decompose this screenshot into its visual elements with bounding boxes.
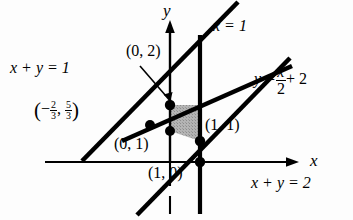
label-point-0-2: (0, 2) <box>126 43 161 59</box>
fraction-x-over-2: x2 <box>276 64 286 98</box>
label-x-plus-y-equals-1: x + y = 1 <box>10 60 70 76</box>
math-diagram: y x x + y = 1 x = 1 x + y = 2 y =x2+ 2 (… <box>0 0 353 220</box>
vertex-dot-1-0 <box>195 157 205 167</box>
fraction-two-thirds: 23 <box>50 100 57 121</box>
vertex-dot-0-2 <box>165 100 175 110</box>
fraction-denominator: 3 <box>50 111 57 121</box>
fraction-denominator: 3 <box>65 111 72 121</box>
comma-separator: , <box>57 100 61 117</box>
x-axis-arrowhead <box>286 157 299 167</box>
fraction-numerator: x <box>276 64 286 81</box>
x-axis-label: x <box>310 152 318 169</box>
label-x-equals-1: x = 1 <box>213 18 247 34</box>
y-axis-arrowhead <box>165 20 175 33</box>
y-axis-label: y <box>163 2 171 19</box>
open-paren: ( <box>34 98 41 122</box>
label-y-equals-lhs: y = <box>254 70 276 87</box>
close-paren: ) <box>72 98 79 122</box>
fraction-denominator: 2 <box>276 81 286 97</box>
vertex-dot-0-1 <box>165 126 175 136</box>
fraction-five-thirds: 53 <box>65 100 72 121</box>
label-point-neg-two-thirds-five-thirds: (−23, 53) <box>34 100 79 121</box>
label-point-1-0: (1, 0) <box>148 165 183 181</box>
label-y-equals-rhs: + 2 <box>286 70 307 87</box>
label-y-equals-half-x-plus-2: y =x2+ 2 <box>254 64 307 98</box>
label-point-1-1: (1, 1) <box>205 117 240 133</box>
vertex-dot-neg-two-thirds-five-thirds <box>145 120 155 130</box>
minus-sign: − <box>41 100 50 117</box>
label-x-plus-y-equals-2: x + y = 2 <box>251 175 311 191</box>
vertex-dot-1-1 <box>195 136 205 146</box>
label-point-0-1: (0, 1) <box>114 136 149 152</box>
